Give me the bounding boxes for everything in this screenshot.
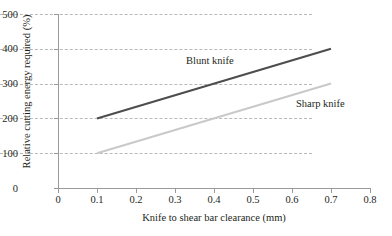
blunt-knife-label: Blunt knife <box>186 55 234 66</box>
x-axis-title: Knife to shear bar clearance (mm) <box>58 212 370 223</box>
sharp-knife-label: Sharp knife <box>296 98 345 109</box>
y-axis-title: Relative cutting energy required (%) <box>21 2 32 182</box>
series-lines <box>0 0 392 236</box>
line-chart: 500 400 300 200 100 0 0 0.1 0.2 0.3 0.4 … <box>0 0 392 236</box>
sharp-knife-line <box>97 84 331 154</box>
